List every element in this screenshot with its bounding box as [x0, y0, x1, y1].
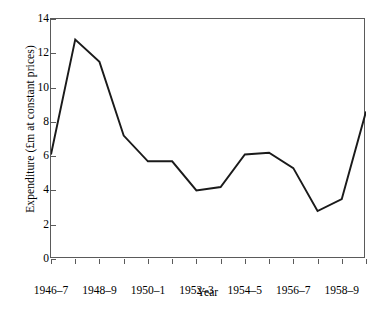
- y-tick-mark: [51, 156, 56, 157]
- y-tick-mark: [51, 88, 56, 89]
- x-tick-mark: [245, 259, 246, 264]
- y-tick-label: 0: [25, 253, 49, 265]
- y-tick-label: 4: [25, 184, 49, 196]
- y-tick-mark: [51, 225, 56, 226]
- y-tick-label: 14: [25, 13, 49, 25]
- y-tick-label: 2: [25, 219, 49, 231]
- plot-area: 024681012141946–71948–91950–11952–31954–…: [50, 18, 365, 258]
- x-tick-mark: [269, 259, 270, 264]
- y-tick-mark: [51, 53, 56, 54]
- y-tick-mark: [51, 19, 56, 20]
- x-tick-mark: [75, 259, 76, 264]
- expenditure-line-chart: Expenditure (£m at constant prices) 0246…: [0, 0, 376, 309]
- x-tick-mark: [293, 259, 294, 264]
- y-axis-title: Expenditure (£m at constant prices): [24, 4, 36, 254]
- x-tick-mark: [124, 259, 125, 264]
- y-tick-label: 8: [25, 116, 49, 128]
- y-tick-label: 10: [25, 82, 49, 94]
- x-tick-mark: [51, 259, 52, 264]
- y-tick-label: 6: [25, 150, 49, 162]
- x-tick-mark: [172, 259, 173, 264]
- y-tick-mark: [51, 122, 56, 123]
- x-tick-mark: [148, 259, 149, 264]
- y-tick-mark: [51, 190, 56, 191]
- x-tick-mark: [196, 259, 197, 264]
- expenditure-series-line: [51, 40, 366, 211]
- x-tick-mark: [342, 259, 343, 264]
- x-axis-title: Year: [50, 286, 365, 298]
- x-tick-mark: [99, 259, 100, 264]
- x-tick-mark: [366, 259, 367, 264]
- y-tick-label: 12: [25, 47, 49, 59]
- x-tick-mark: [221, 259, 222, 264]
- data-line-svg: [51, 19, 366, 259]
- x-tick-mark: [318, 259, 319, 264]
